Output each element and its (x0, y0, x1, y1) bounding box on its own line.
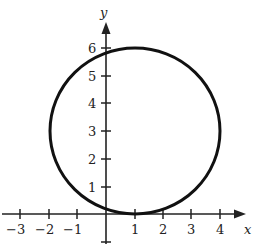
y-tick-label: 3 (88, 124, 96, 139)
y-tick-label: 1 (88, 180, 96, 195)
x-tick-label: −1 (63, 222, 82, 237)
x-tick-label: 2 (159, 222, 167, 237)
circle-curve (50, 48, 220, 214)
x-tick-label: −2 (35, 222, 54, 237)
x-tick-label: 3 (187, 222, 195, 237)
y-tick-label: 6 (88, 41, 96, 56)
x-tick-label: 4 (216, 222, 224, 237)
y-tick-labels: 1 2 3 4 5 6 (88, 41, 96, 195)
y-axis-label: y (99, 5, 108, 20)
y-tick-label: 4 (88, 96, 96, 111)
y-tick-label: 2 (88, 152, 96, 167)
x-axis-arrow-icon (234, 210, 246, 219)
x-tick-label: −3 (6, 222, 25, 237)
x-tick-labels: −3 −2 −1 1 2 3 4 (6, 222, 224, 237)
y-tick-label: 5 (88, 69, 96, 84)
coordinate-plane: x y −3 −2 −1 1 2 3 4 1 2 3 4 5 6 (0, 0, 254, 248)
x-tick-label: 1 (131, 222, 139, 237)
y-axis-arrow-icon (102, 22, 111, 34)
x-axis-label: x (244, 222, 252, 237)
